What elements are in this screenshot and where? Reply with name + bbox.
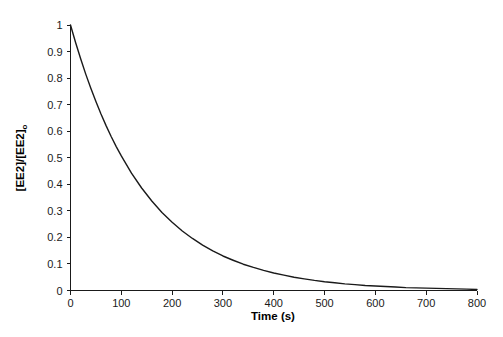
y-tick-label: 0.7 — [47, 99, 62, 111]
x-tick-label: 500 — [315, 297, 333, 309]
x-tick-label: 800 — [468, 297, 486, 309]
y-tick-label: 0.3 — [47, 205, 62, 217]
y-tick-label: 0.4 — [47, 178, 62, 190]
y-tick-label: 1 — [56, 19, 62, 31]
y-tick-label: 0.5 — [47, 152, 62, 164]
x-tick-label: 200 — [163, 297, 181, 309]
x-tick-label: 700 — [417, 297, 435, 309]
decay-chart: 00.10.20.30.40.50.60.70.80.91 0100200300… — [0, 0, 503, 337]
y-tick-label: 0.9 — [47, 46, 62, 58]
x-axis-title: Time (s) — [251, 310, 295, 322]
y-tick-label: 0.1 — [47, 258, 62, 270]
x-tick-label: 400 — [265, 297, 283, 309]
x-tick-label: 600 — [366, 297, 384, 309]
y-tick-label: 0.2 — [47, 231, 62, 243]
x-tick-label: 300 — [214, 297, 232, 309]
y-tick-label: 0.6 — [47, 125, 62, 137]
x-tick-label: 100 — [112, 297, 130, 309]
y-tick-label: 0.8 — [47, 72, 62, 84]
chart-background — [0, 0, 503, 337]
y-tick-label: 0 — [56, 285, 62, 297]
chart-figure: 00.10.20.30.40.50.60.70.80.91 0100200300… — [0, 0, 503, 337]
x-tick-label: 0 — [67, 297, 73, 309]
